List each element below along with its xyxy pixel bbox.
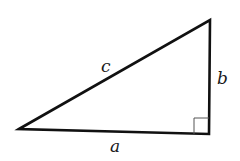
label-hypotenuse-c: c [101, 56, 111, 76]
triangle-shape [19, 20, 210, 134]
label-leg-a: a [110, 136, 120, 156]
right-triangle-diagram: c b a [0, 0, 240, 161]
label-leg-b: b [217, 68, 228, 88]
right-angle-marker [194, 118, 209, 134]
